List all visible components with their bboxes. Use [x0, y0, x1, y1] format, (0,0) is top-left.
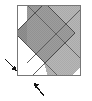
arrow-left — [5, 59, 17, 71]
arrow-bottom — [34, 83, 45, 97]
figure-container: Two overlapping rotated squares inscribe… — [0, 0, 92, 101]
geometric-diagram: Two overlapping rotated squares inscribe… — [0, 0, 92, 101]
arrow-bottom-shaft — [36, 86, 44, 96]
